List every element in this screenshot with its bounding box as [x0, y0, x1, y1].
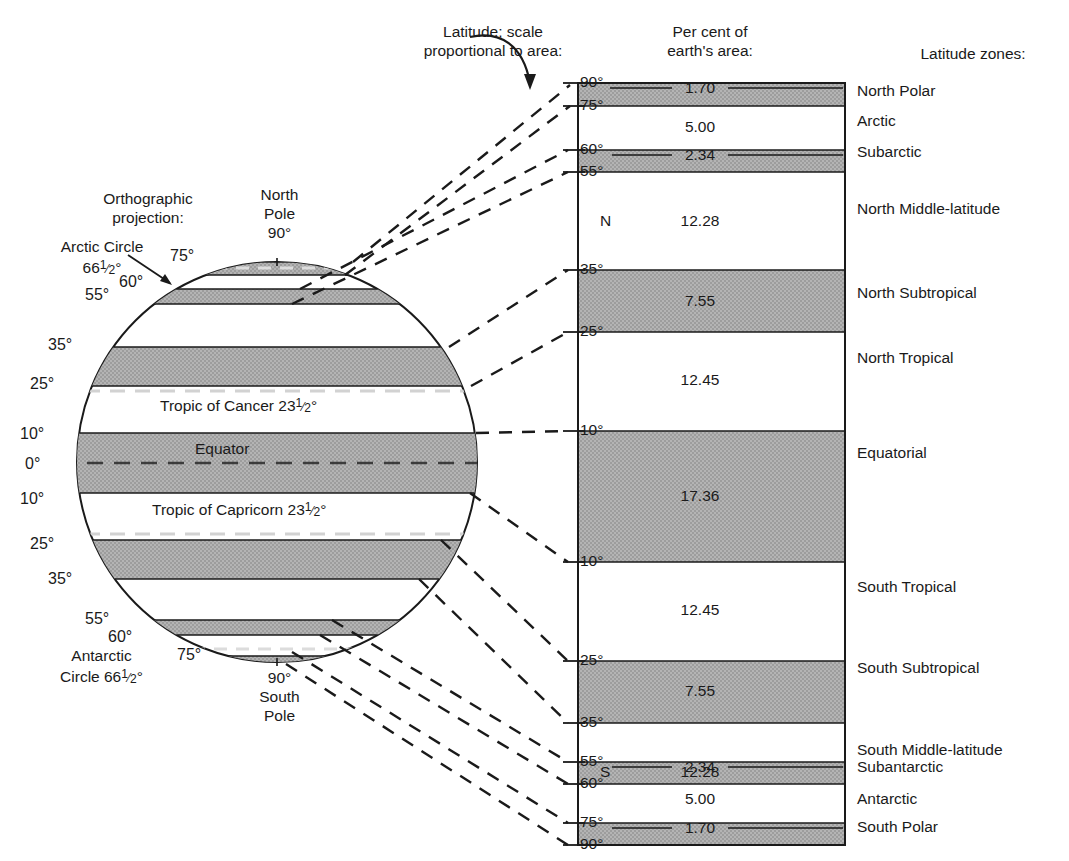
globe-lat-75s: 75° — [177, 646, 201, 664]
zone-label-subantarctic: Subantarctic — [857, 758, 943, 776]
latitude-zone-diagram-svg — [0, 0, 1069, 861]
globe-group — [60, 255, 500, 668]
area-bar-column — [563, 83, 845, 845]
zone-label-north-middle-latitude: North Middle-latitude — [857, 200, 1000, 218]
zone-label-arctic: Arctic — [857, 112, 896, 130]
bar-lat-35s: 35° — [580, 713, 603, 731]
globe-lat-55n: 55° — [85, 286, 109, 304]
globe-lat-75n: 75° — [170, 247, 194, 265]
globe-band-south-subtropical — [60, 540, 500, 579]
bar-lat-60n: 60° — [580, 140, 603, 158]
scale-callout-arrowhead — [524, 74, 536, 90]
zone-label-north-subtropical: North Subtropical — [857, 284, 977, 302]
bar-lat-10s: 10° — [580, 552, 603, 570]
hemisphere-mark-north: N — [600, 212, 611, 230]
globe-lat-0: 0° — [25, 455, 40, 473]
value-north-middle-latitude: 12.28 — [640, 212, 760, 230]
zone-label-equatorial: Equatorial — [857, 444, 927, 462]
value-south-tropical: 12.45 — [640, 601, 760, 619]
globe-lat-35n: 35° — [48, 336, 72, 354]
bar-lat-75n: 75° — [580, 96, 603, 114]
half-fraction-3: 1⁄2 — [296, 396, 311, 415]
globe-antarctic-circle-label: AntarcticCircle 661⁄2° — [14, 646, 189, 689]
globe-lat-35s: 35° — [48, 570, 72, 588]
globe-lat-55s: 55° — [85, 610, 109, 628]
globe-lat-10n: 10° — [20, 425, 44, 443]
zone-label-subarctic: Subarctic — [857, 143, 922, 161]
value-north-tropical: 12.45 — [640, 371, 760, 389]
zone-label-antarctic: Antarctic — [857, 790, 917, 808]
globe-south-pole-label: 90° South Pole — [232, 668, 327, 725]
globe-tropic-cancer-label: Tropic of Cancer 231⁄2° — [160, 396, 317, 415]
globe-band-north-subtropical — [60, 347, 500, 386]
value-antarctic: 5.00 — [640, 790, 760, 808]
globe-arctic-circle-label: Arctic Circle661⁄2° — [22, 237, 182, 280]
bar-lat-55n: 55° — [580, 162, 603, 180]
globe-tropic-capricorn-label: Tropic of Capricorn 231⁄2° — [152, 500, 326, 519]
globe-band-subarctic — [60, 289, 500, 304]
value-equatorial: 17.36 — [640, 487, 760, 505]
globe-north-pole-label: North Pole 90° — [232, 185, 327, 242]
value-south-subtropical: 7.55 — [640, 682, 760, 700]
bar-lat-90s: 90° — [580, 835, 603, 853]
globe-lat-60s: 60° — [108, 628, 132, 646]
value-arctic: 5.00 — [640, 118, 760, 136]
half-fraction-2: 1⁄2 — [121, 665, 136, 689]
value-subarctic: 2.34 — [640, 146, 760, 164]
zone-label-north-tropical: North Tropical — [857, 349, 953, 367]
value-north-subtropical: 7.55 — [640, 292, 760, 310]
hemisphere-mark-south: S — [600, 763, 610, 781]
diagram-canvas: Latitude; scale proportional to area: Pe… — [0, 0, 1069, 861]
bar-lat-25n: 25° — [580, 322, 603, 340]
bar-lat-90n: 90° — [580, 73, 603, 91]
globe-projection-label: Orthographic projection: — [58, 189, 238, 227]
zone-label-south-tropical: South Tropical — [857, 578, 956, 596]
zone-label-south-middle-latitude: South Middle-latitude — [857, 741, 1003, 759]
globe-equator-label: Equator — [195, 440, 249, 458]
value-north-polar: 1.70 — [640, 79, 760, 97]
value-south-polar: 1.70 — [640, 819, 760, 837]
value-subantarctic: 2.34 — [640, 758, 760, 776]
globe-lat-25n: 25° — [30, 375, 54, 393]
bar-lat-35n: 35° — [580, 260, 603, 278]
zone-label-south-subtropical: South Subtropical — [857, 659, 979, 677]
globe-lat-25s: 25° — [30, 535, 54, 553]
globe-lat-10s: 10° — [20, 490, 44, 508]
header-latitude-scale: Latitude; scale proportional to area: — [398, 22, 588, 60]
half-fraction-4: 1⁄2 — [305, 500, 320, 519]
bar-lat-75s: 75° — [580, 813, 603, 831]
zone-label-south-polar: South Polar — [857, 818, 938, 836]
bar-lat-10n: 10° — [580, 421, 603, 439]
bar-lat-25s: 25° — [580, 651, 603, 669]
globe-lat-60n: 60° — [119, 273, 143, 291]
header-percent-area: Per cent of earth's area: — [620, 22, 800, 60]
antarctic-circle-text: Antarctic — [71, 647, 131, 664]
arctic-circle-text: Arctic Circle — [61, 238, 144, 255]
half-fraction: 1⁄2 — [100, 256, 115, 280]
zone-label-north-polar: North Polar — [857, 82, 935, 100]
header-latitude-zones: Latitude zones: — [878, 44, 1068, 63]
